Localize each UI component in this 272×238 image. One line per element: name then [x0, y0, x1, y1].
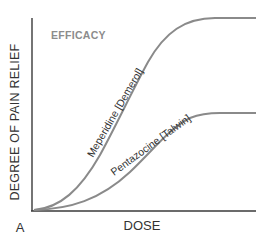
dose-response-chart: EFFICACY DEGREE OF PAIN RELIEF DOSE A Me… [0, 0, 272, 238]
y-axis-label: DEGREE OF PAIN RELIEF [8, 43, 22, 200]
meperidine-label: Meperidine [Demerol] [84, 66, 145, 159]
pentazocine-label: Pentazocine [Talwin] [108, 112, 193, 178]
x-axis-label: DOSE [124, 218, 161, 233]
efficacy-title: EFFICACY [51, 29, 106, 41]
panel-label: A [16, 220, 25, 235]
